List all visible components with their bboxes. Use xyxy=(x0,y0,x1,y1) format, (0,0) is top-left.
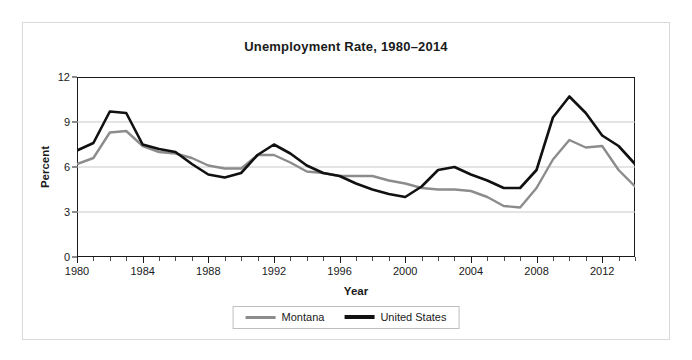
x-tick-mark xyxy=(225,257,226,261)
x-tick-mark xyxy=(454,257,455,261)
x-tick-mark xyxy=(241,257,242,261)
y-tick-label: 3 xyxy=(64,206,70,218)
x-tick-mark xyxy=(290,257,291,261)
x-tick-mark xyxy=(208,257,209,263)
x-tick-mark xyxy=(553,257,554,261)
x-tick-mark xyxy=(175,257,176,261)
x-tick-mark xyxy=(143,257,144,263)
y-tick-mark xyxy=(72,122,77,123)
x-tick-label: 1984 xyxy=(130,265,154,277)
series-line-montana xyxy=(77,131,635,208)
y-tick-label: 9 xyxy=(64,116,70,128)
legend-label-united-states: United States xyxy=(380,311,446,323)
x-tick-mark xyxy=(356,257,357,261)
x-tick-mark xyxy=(569,257,570,261)
chart-figure: Unemployment Rate, 1980–2014 Percent 036… xyxy=(22,22,670,340)
x-tick-mark xyxy=(258,257,259,261)
x-axis-label: Year xyxy=(77,285,635,297)
chart-lines xyxy=(77,77,635,257)
legend-label-montana: Montana xyxy=(282,311,325,323)
y-tick-mark xyxy=(72,212,77,213)
x-tick-mark xyxy=(323,257,324,261)
y-tick-mark xyxy=(72,77,77,78)
x-tick-label: 1988 xyxy=(196,265,220,277)
legend-item-montana: Montana xyxy=(246,311,325,323)
x-tick-mark xyxy=(307,257,308,261)
x-tick-mark xyxy=(520,257,521,261)
plot-wrapper: 0369121980198419881992199620002004200820… xyxy=(77,77,635,257)
chart-title: Unemployment Rate, 1980–2014 xyxy=(23,39,669,54)
x-tick-mark xyxy=(537,257,538,263)
x-tick-label: 2008 xyxy=(524,265,548,277)
x-tick-label: 1992 xyxy=(262,265,286,277)
y-axis-label: Percent xyxy=(39,146,51,188)
x-tick-mark xyxy=(504,257,505,261)
x-tick-label: 1996 xyxy=(327,265,351,277)
x-tick-mark xyxy=(619,257,620,261)
y-tick-label: 12 xyxy=(58,71,70,83)
x-tick-mark xyxy=(405,257,406,263)
x-tick-label: 2000 xyxy=(393,265,417,277)
x-tick-mark xyxy=(487,257,488,261)
x-tick-mark xyxy=(93,257,94,261)
x-tick-mark xyxy=(110,257,111,261)
x-tick-mark xyxy=(372,257,373,261)
x-tick-mark xyxy=(126,257,127,261)
series-line-united-states xyxy=(77,97,635,198)
x-tick-mark xyxy=(192,257,193,261)
x-tick-mark xyxy=(274,257,275,263)
y-tick-mark xyxy=(72,167,77,168)
x-tick-mark xyxy=(635,257,636,261)
x-tick-mark xyxy=(340,257,341,263)
y-tick-label: 0 xyxy=(64,251,70,263)
x-tick-label: 1980 xyxy=(65,265,89,277)
x-tick-label: 2004 xyxy=(459,265,483,277)
legend-item-united-states: United States xyxy=(344,311,446,323)
x-tick-mark xyxy=(422,257,423,261)
legend-swatch-united-states xyxy=(344,315,374,319)
x-tick-mark xyxy=(438,257,439,261)
x-tick-mark xyxy=(602,257,603,263)
x-tick-label: 2012 xyxy=(590,265,614,277)
x-tick-mark xyxy=(77,257,78,263)
x-tick-mark xyxy=(159,257,160,261)
legend-swatch-montana xyxy=(246,316,276,319)
y-tick-label: 6 xyxy=(64,161,70,173)
x-tick-mark xyxy=(471,257,472,263)
x-tick-mark xyxy=(389,257,390,261)
x-tick-mark xyxy=(586,257,587,261)
chart-legend: Montana United States xyxy=(233,306,460,329)
